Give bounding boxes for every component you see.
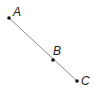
label-a: A: [12, 5, 21, 19]
segment-ac: [9, 18, 77, 81]
label-b: B: [53, 44, 61, 58]
point-b: [51, 58, 55, 62]
diagram-canvas: A B C: [0, 0, 94, 90]
point-a: [7, 16, 11, 20]
point-c: [75, 79, 79, 83]
label-c: C: [81, 74, 90, 88]
